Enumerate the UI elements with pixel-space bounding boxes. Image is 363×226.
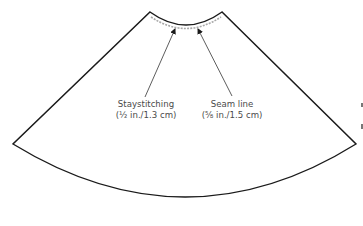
staystitching-title: Staystitching [116,99,177,110]
seam-line-title: Seam line [202,99,263,110]
skirt-pattern-outline [13,12,356,197]
seam-line-measure: (⅝ in./1.5 cm) [202,110,263,121]
staystitching-measure: (½ in./1.3 cm) [116,110,177,121]
seam-line-label: Seam line (⅝ in./1.5 cm) [202,99,263,121]
staystitching-label: Staystitching (½ in./1.3 cm) [116,99,177,121]
skirt-pattern-diagram [0,0,363,226]
